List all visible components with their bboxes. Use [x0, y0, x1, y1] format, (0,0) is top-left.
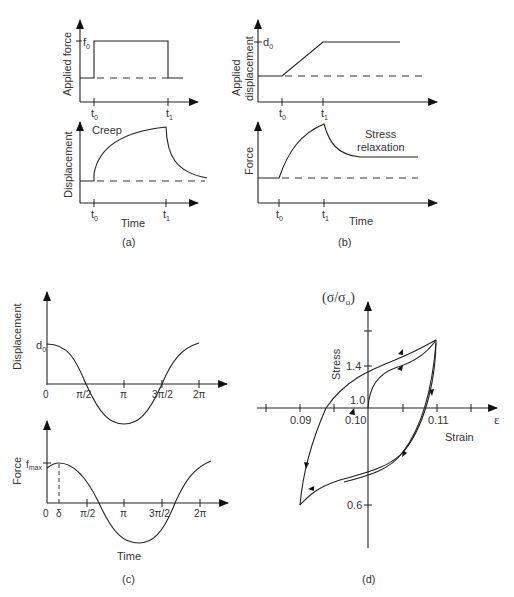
svg-text:relaxation: relaxation: [357, 141, 405, 153]
svg-text:2π: 2π: [194, 508, 207, 519]
svg-text:displacement: displacement: [243, 36, 255, 101]
svg-text:Applied: Applied: [230, 59, 242, 96]
panel-b-force-plot: Stress relaxation t0 t1 Time Force: [243, 122, 437, 227]
displacement-ramp-curve: [258, 42, 400, 76]
svg-text:Time: Time: [349, 215, 373, 227]
t1-label: t1: [166, 107, 173, 121]
creep-annotation: Creep: [92, 124, 122, 136]
svg-text:δ: δ: [56, 508, 62, 519]
svg-text:t1: t1: [322, 208, 329, 222]
panel-c-displacement-plot: d0 0 π/2 π 3π/2 2π Displacement: [11, 292, 227, 424]
svg-text:Force: Force: [243, 147, 255, 175]
svg-text:0.6: 0.6: [347, 499, 362, 511]
svg-text:0.09: 0.09: [290, 414, 311, 426]
caption-a: (a): [122, 236, 135, 248]
svg-text:d0: d0: [263, 36, 273, 50]
t0-label: t0: [91, 107, 98, 121]
panel-a-displacement-plot: Creep t0 t1 Time Displacement: [62, 122, 207, 229]
panel-a-force-plot: f0 t0 t1 Applied force: [61, 20, 198, 121]
panel-d: (σ/σo) Stress 1.4 1.0 0.6 0.09 0.10 0.11…: [257, 290, 500, 585]
svg-text:t0: t0: [91, 208, 98, 222]
caption-d: (d): [362, 573, 375, 585]
svg-text:0: 0: [43, 389, 49, 400]
stress-ylabel: Stress: [330, 348, 342, 380]
svg-text:1.4: 1.4: [346, 360, 361, 372]
svg-text:π/2: π/2: [80, 508, 96, 519]
svg-text:Stress: Stress: [365, 128, 397, 140]
svg-text:d0: d0: [36, 339, 46, 353]
displacement-ylabel: Displacement: [62, 131, 74, 198]
panel-b: d0 t0 t1 Applied displacement Stress rel…: [230, 20, 437, 248]
svg-text:π: π: [120, 389, 127, 400]
svg-text:t0: t0: [279, 107, 286, 121]
svg-text:π/2: π/2: [76, 389, 92, 400]
f0-label: f0: [83, 36, 90, 50]
svg-text:Force: Force: [11, 457, 23, 485]
svg-text:t1: t1: [163, 208, 170, 222]
applied-force-ylabel: Applied force: [61, 32, 73, 96]
svg-text:3π/2: 3π/2: [149, 508, 170, 519]
caption-b: (b): [338, 236, 351, 248]
time-xlabel: Time: [121, 217, 145, 229]
figure-canvas: f0 t0 t1 Applied force Creep t0 t1 Time …: [0, 0, 514, 597]
panel-c: d0 0 π/2 π 3π/2 2π Displacement fmax 0 δ…: [11, 292, 228, 585]
epsilon-symbol: ε: [494, 412, 500, 427]
svg-text:1.0: 1.0: [350, 394, 365, 406]
force-step-curve: [80, 41, 183, 78]
svg-text:0: 0: [43, 508, 49, 519]
svg-text:π: π: [120, 508, 127, 519]
strain-xlabel: Strain: [445, 431, 474, 443]
svg-text:Displacement: Displacement: [11, 303, 23, 370]
svg-text:0.11: 0.11: [428, 414, 449, 426]
svg-text:Time: Time: [117, 550, 141, 562]
panel-c-force-plot: fmax 0 δ π/2 π 3π/2 2π Time Force: [11, 421, 228, 562]
svg-text:t0: t0: [276, 208, 283, 222]
svg-text:2π: 2π: [193, 389, 206, 400]
svg-text:t1: t1: [321, 107, 328, 121]
svg-text:3π/2: 3π/2: [152, 389, 173, 400]
force-cosine-lagged: [47, 461, 211, 543]
caption-c: (c): [122, 573, 135, 585]
svg-text:fmax: fmax: [26, 459, 43, 471]
panel-b-displacement-plot: d0 t0 t1 Applied displacement: [230, 20, 437, 121]
panel-a: f0 t0 t1 Applied force Creep t0 t1 Time …: [61, 20, 207, 248]
svg-text:0.10: 0.10: [345, 414, 366, 426]
stress-ratio-title: (σ/σo): [322, 290, 355, 307]
